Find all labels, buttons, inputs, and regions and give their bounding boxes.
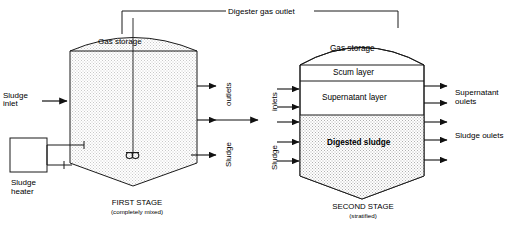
stage-two-inlets-label: inlets [270, 92, 279, 111]
supernatant-outlets-label-line1: Supernatant [455, 88, 499, 97]
supernatant-outlets-label-line2: oulets [455, 97, 476, 106]
sludge-heater-label-line2: heater [11, 187, 34, 196]
stage-two-outlet-arrows [424, 86, 447, 160]
digester-diagram-canvas: Digester gas outlet Gas storage Sludge i… [0, 0, 513, 226]
sludge-outlets-label: Sludge oulets [455, 131, 503, 140]
stage-two-caption-sub: (stratified) [318, 211, 408, 220]
stage-one-sludge-outlet-label: Sludge [224, 142, 233, 167]
stage-two-sludge-inlet-label: Sludge [270, 145, 279, 170]
diagram-vector-layer [0, 0, 513, 226]
stage-two-caption-title: SECOND STAGE [332, 202, 393, 211]
stage-two-layer-supernatant-label: Supernatant layer [322, 93, 387, 102]
stage-two-layer-gas-storage-label: Gas storage [330, 44, 375, 53]
stage-two-layer-digested-sludge-label: Digested sludge [327, 138, 390, 147]
stage-two-layer-scum-label: Scum layer [333, 68, 374, 77]
stage-one-gas-storage-label: Gas storage [98, 37, 142, 46]
stage-two-inlet-arrows [277, 89, 299, 161]
sludge-inlet-label-line2: inlet [3, 99, 18, 108]
stage-two-caption: SECOND STAGE (stratified) [318, 202, 408, 220]
sludge-heater-label-line1: Sludge [11, 178, 36, 187]
stage-one-outlets-label: outlets [224, 82, 233, 106]
digester-gas-outlet-label: Digester gas outlet [228, 7, 295, 16]
stage-one-caption: FIRST STAGE (completely mixed) [97, 198, 177, 216]
stage-one-caption-title: FIRST STAGE [112, 198, 162, 207]
stage-one-caption-sub: (completely mixed) [97, 207, 177, 216]
